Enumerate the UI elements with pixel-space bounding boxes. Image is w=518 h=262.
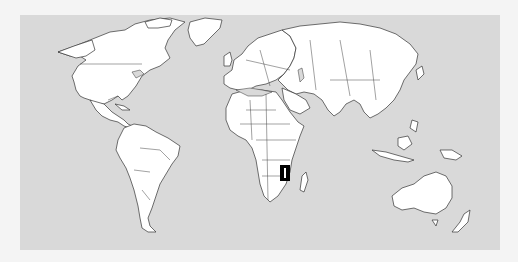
new-zealand xyxy=(452,210,470,232)
borneo xyxy=(398,136,412,150)
central-america xyxy=(90,100,132,128)
highlighted-country-malawi xyxy=(280,165,290,181)
malawi-shape xyxy=(284,168,286,178)
cuba xyxy=(115,104,130,110)
indonesia xyxy=(372,150,414,162)
world-map xyxy=(20,15,500,250)
japan xyxy=(416,66,424,80)
new-guinea xyxy=(440,150,462,160)
tasmania xyxy=(432,220,438,226)
south-america xyxy=(116,124,180,232)
australia xyxy=(392,172,452,214)
north-america xyxy=(58,18,185,104)
philippines xyxy=(410,120,418,132)
madagascar xyxy=(300,172,308,192)
arctic-islands xyxy=(145,18,172,28)
highlighted-country-label: Malawi xyxy=(0,0,1,1)
uk xyxy=(224,52,232,66)
greenland xyxy=(188,18,222,46)
map-land-layer xyxy=(20,15,500,250)
